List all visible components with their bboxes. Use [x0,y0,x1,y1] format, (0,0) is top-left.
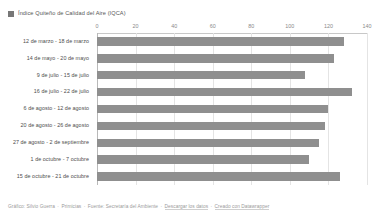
x-tick-label: 40 [171,24,177,29]
footer-author: Gráfico: Silvio Guerra [8,204,55,209]
bar-row[interactable] [97,151,367,168]
category-label-cell: 12 de marzo - 18 de marzo [0,33,93,50]
footer-separator-3: · [159,204,163,209]
category-label-cell: 1 de octubre - 7 octubre [0,151,93,168]
chart-footer: Gráfico: Silvio Guerra · Primicias · Fue… [8,205,269,210]
plot-area [97,33,367,185]
x-tick-label: 20 [133,24,139,29]
x-tick-label: 100 [285,24,294,29]
category-label-cell: 14 de mayo - 20 de mayo [0,50,93,67]
x-tick-label: 60 [210,24,216,29]
bar-row[interactable] [97,101,367,118]
bar-row[interactable] [97,134,367,151]
category-label: 14 de mayo - 20 de mayo [27,56,89,61]
x-axis-tick-labels: 020406080100120140 [97,24,367,33]
category-label: 6 de agosto - 12 de agosto [24,106,89,111]
footer-separator-1: · [56,204,60,209]
bar[interactable] [97,139,319,148]
footer-publisher: Primicias [61,204,81,209]
x-tick-label: 80 [248,24,254,29]
category-label-cell: 20 de agosto - 26 de agosto [0,118,93,135]
bar-row[interactable] [97,67,367,84]
category-label: 20 de agosto - 26 de agosto [21,123,90,128]
x-tick-label: 140 [363,24,372,29]
category-label: 27 de agosto - 2 de septiembre [13,140,89,145]
bar[interactable] [97,172,340,181]
legend-label: Índice Quiteño de Calidad del Aire (IQCA… [18,11,126,17]
download-data-link[interactable]: Descargar los datos [165,204,209,210]
chart-container: Índice Quiteño de Calidad del Aire (IQCA… [0,0,377,217]
category-label: 1 de octubre - 7 octubre [31,157,89,162]
x-tick-label: 0 [96,24,99,29]
chart-legend: Índice Quiteño de Calidad del Aire (IQCA… [8,11,126,17]
bar-row[interactable] [97,168,367,185]
bar-row[interactable] [97,118,367,135]
category-label: 15 de octubre - 21 de octubre [17,174,89,179]
category-label-cell: 27 de agosto - 2 de septiembre [0,134,93,151]
legend-color-swatch [8,11,14,17]
gridline [367,33,368,185]
bar-row[interactable] [97,84,367,101]
bar[interactable] [97,155,309,164]
bar-row[interactable] [97,33,367,50]
category-label-cell: 9 de julio - 15 de julio [0,67,93,84]
bar[interactable] [97,37,344,46]
bar[interactable] [97,122,325,131]
created-with-datawrapper-link[interactable]: Creado con Datawrapper [215,204,270,210]
category-label: 12 de marzo - 18 de marzo [23,39,89,44]
category-label-cell: 15 de octubre - 21 de octubre [0,168,93,185]
footer-separator-2: · [83,204,87,209]
bar[interactable] [97,71,305,80]
category-label: 9 de julio - 15 de julio [37,73,89,78]
y-axis-category-labels: 12 de marzo - 18 de marzo14 de mayo - 20… [0,33,93,185]
bar[interactable] [97,88,352,97]
category-label-cell: 6 de agosto - 12 de agosto [0,101,93,118]
bar-row[interactable] [97,50,367,67]
category-label-cell: 16 de julio - 22 de julio [0,84,93,101]
footer-source: Fuente: Secretaría del Ambiente [88,204,158,209]
bar[interactable] [97,54,334,63]
x-tick-label: 120 [324,24,333,29]
bar[interactable] [97,105,328,114]
footer-separator-4: · [210,204,214,209]
bars-group [97,33,367,185]
category-label: 16 de julio - 22 de julio [34,89,89,94]
